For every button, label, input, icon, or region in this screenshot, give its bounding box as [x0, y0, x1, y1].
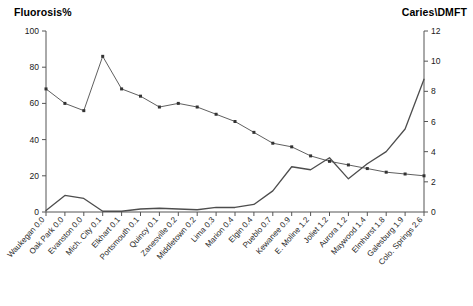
data-point-marker [158, 106, 161, 109]
y-tick-label-left: 100 [25, 26, 39, 36]
y-tick-label-right: 10 [431, 56, 441, 66]
data-point-marker [404, 172, 407, 175]
y-tick-label-right: 4 [431, 147, 436, 157]
series-line-1 [46, 56, 424, 175]
chart-container: Fluorosis% Caries\DMFT 020406080100 0246… [0, 0, 473, 306]
left-axis-title: Fluorosis% [14, 6, 72, 18]
y-tick-label-right: 6 [431, 117, 436, 127]
data-point-marker [139, 95, 142, 98]
data-point-marker [366, 167, 369, 170]
series-line-0 [46, 79, 424, 211]
y-tick-label-left: 80 [30, 62, 40, 72]
line-chart-plot: 020406080100 024681012 Waukegan 0.0Oak P… [0, 0, 473, 306]
y-tick-label-right: 0 [431, 207, 436, 217]
data-point-marker [328, 160, 331, 163]
y-axis-right: 024681012 [424, 26, 441, 217]
data-point-marker [120, 87, 123, 90]
data-point-marker [45, 87, 48, 90]
y-tick-label-left: 60 [30, 98, 40, 108]
category-labels: Waukegan 0.0Oak Park 0.0Evanston 0.0Mich… [5, 215, 424, 267]
y-tick-label-left: 40 [30, 135, 40, 145]
data-point-marker [101, 55, 104, 58]
data-point-marker [177, 102, 180, 105]
data-point-marker [271, 142, 274, 145]
data-point-marker [309, 154, 312, 157]
series-layer [45, 55, 426, 211]
x-axis [46, 212, 424, 216]
data-point-marker [385, 171, 388, 174]
right-axis-title: Caries\DMFT [402, 6, 467, 18]
y-tick-label-right: 2 [431, 177, 436, 187]
data-point-marker [423, 174, 426, 177]
data-point-marker [63, 102, 66, 105]
data-point-marker [290, 145, 293, 148]
y-tick-label-right: 8 [431, 86, 436, 96]
data-point-marker [347, 163, 350, 166]
data-point-marker [252, 131, 255, 134]
y-axis-left: 020406080100 [25, 26, 46, 217]
data-point-marker [196, 106, 199, 109]
y-tick-label-left: 20 [30, 171, 40, 181]
y-tick-label-right: 12 [431, 26, 441, 36]
data-point-marker [234, 120, 237, 123]
data-point-marker [215, 113, 218, 116]
data-point-marker [82, 109, 85, 112]
